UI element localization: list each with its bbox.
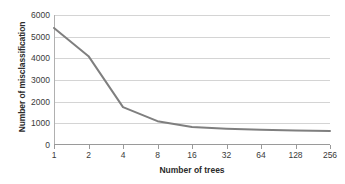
x-axis-tick-mark [123,145,124,149]
x-axis-tick-mark [192,145,193,149]
x-axis-tick-mark [261,145,262,149]
x-axis-tick-mark [296,145,297,149]
series-line [54,15,330,145]
y-axis-tick-label: 3000 [24,76,50,85]
x-axis-tick-label: 256 [310,150,345,160]
x-axis-tick-mark [227,145,228,149]
x-axis-tick-labels: 1248163264128256 [0,150,345,162]
y-axis-tick-label: 1000 [24,119,50,128]
x-axis-tick-mark [89,145,90,149]
x-axis-tick-mark [54,145,55,149]
x-axis-title: Number of trees [54,165,330,176]
line-chart: Number of misclassification 010002000300… [0,0,345,184]
x-axis-tick-mark [158,145,159,149]
y-axis-tick-label: 4000 [24,54,50,63]
y-axis-tick-label: 6000 [24,11,50,20]
y-axis-tick-label: 5000 [24,33,50,42]
y-axis-tick-label: 0 [24,141,50,150]
y-axis-tick-label: 2000 [24,98,50,107]
plot-area [54,15,330,145]
x-axis-tick-mark [330,145,331,149]
